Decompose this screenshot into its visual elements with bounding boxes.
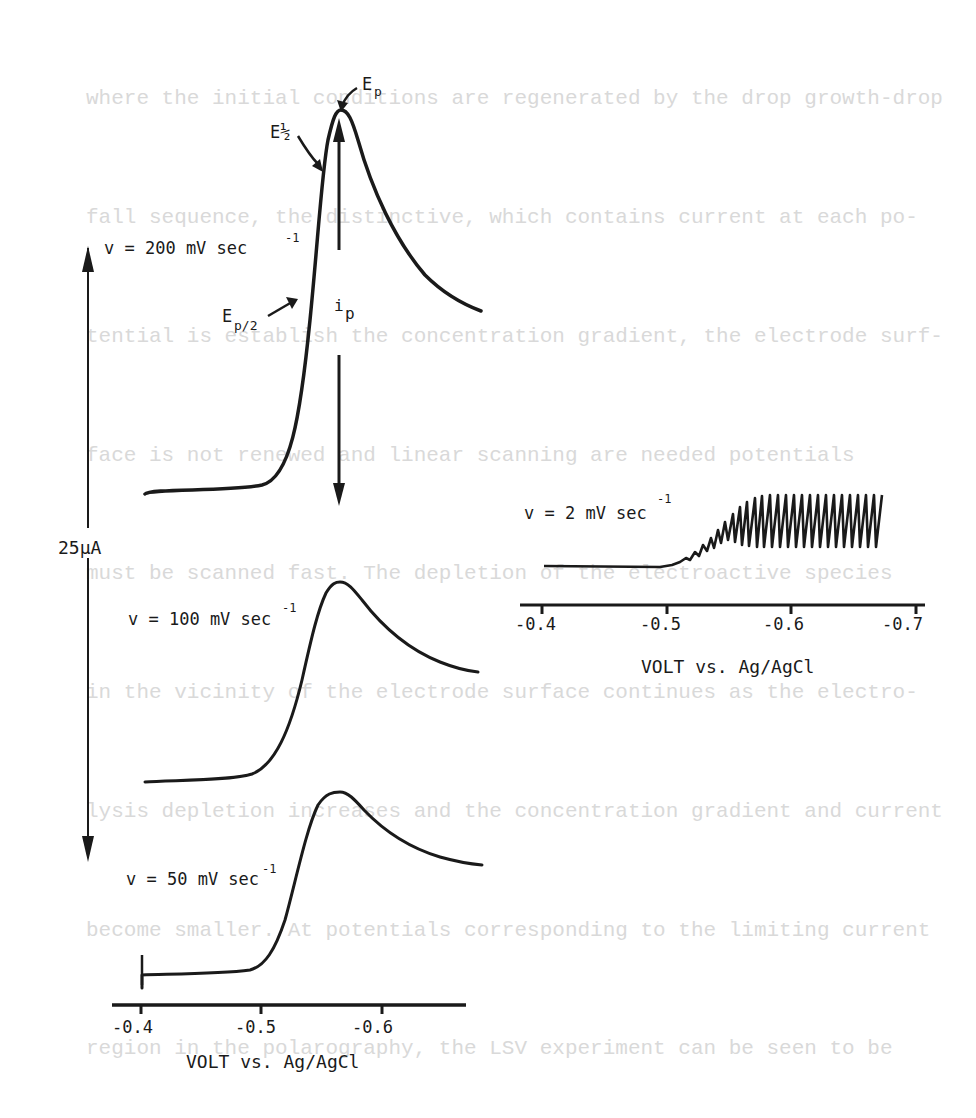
x2-tick-1: -0.5	[640, 614, 681, 634]
x2-tick-3: -0.7	[882, 614, 923, 634]
x2-tick-0: -0.4	[515, 614, 556, 634]
curve-2-label: v = 2 mV sec	[524, 503, 647, 523]
e-half-label: E½	[270, 122, 290, 142]
x-axis-label: VOLT vs. Ag/AgCl	[186, 1051, 359, 1072]
x2-axis-label: VOLT vs. Ag/AgCl	[641, 656, 814, 677]
x-tick-1: -0.5	[235, 1017, 276, 1037]
svg-text:p: p	[374, 84, 382, 99]
polarogram-2mV: v = 2 mV sec -1 -0.4 -0.5 -0.6 -0.7 VOLT…	[515, 492, 925, 677]
ep2-label: E	[222, 306, 232, 326]
current-scale-bar: 25μA	[40, 246, 110, 862]
svg-text:p/2: p/2	[234, 318, 257, 333]
curve-2-label-sup: -1	[657, 492, 671, 506]
arrow-down-icon	[82, 836, 94, 862]
curve-100-label-sup: -1	[282, 601, 296, 615]
curve-200-label-sup: -1	[285, 231, 299, 245]
ep-label: E	[362, 74, 372, 94]
ep2-arrow-icon	[286, 297, 298, 309]
ip-arrow-up-icon	[333, 118, 345, 142]
svg-text:p: p	[345, 304, 355, 323]
voltammogram-figure: 25μA v = 200 mV sec -1 i p E p E½ E p/2 …	[0, 0, 976, 1118]
curve-100mV: v = 100 mV sec -1	[128, 582, 478, 782]
scale-bar-label: 25μA	[58, 537, 102, 558]
curve-50mV: v = 50 mV sec -1	[126, 792, 482, 988]
x2-tick-2: -0.6	[763, 614, 804, 634]
curve-200-label: v = 200 mV sec	[104, 238, 247, 258]
main-x-axis: -0.4 -0.5 -0.6 VOLT vs. Ag/AgCl	[112, 1005, 466, 1072]
curve-50-label-sup: -1	[262, 862, 276, 876]
x-tick-0: -0.4	[112, 1017, 153, 1037]
ip-arrow-down-icon	[333, 483, 345, 506]
curve-200mV: v = 200 mV sec -1 i p E p E½ E p/2	[104, 74, 481, 506]
ip-label: i	[334, 296, 344, 315]
curve-50-label: v = 50 mV sec	[126, 869, 259, 889]
x-tick-2: -0.6	[352, 1017, 393, 1037]
curve-100-label: v = 100 mV sec	[128, 609, 271, 629]
arrow-up-icon	[82, 246, 94, 272]
